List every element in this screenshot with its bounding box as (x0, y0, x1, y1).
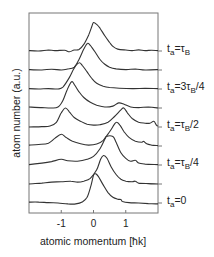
curve-label-curve-3: ta=3τB/4 (167, 80, 205, 95)
series-line-curve-4 (29, 82, 158, 108)
curves-group (29, 22, 158, 204)
series-line-curve-8 (29, 155, 158, 184)
curve-label-curve-5: ta=τB/2 (167, 118, 199, 133)
x-axis-title: atomic momentum [ħk] (40, 235, 146, 247)
curve-label-curve-1: ta=τB (167, 42, 190, 57)
series-line-curve-2 (29, 43, 158, 70)
curve-labels-group: ta=τBta=3τB/4ta=τB/2ta=τB/4ta=0 (167, 42, 205, 209)
x-tick-label-1: 0 (91, 218, 97, 229)
series-line-curve-9 (29, 174, 158, 205)
curve-label-curve-7: ta=τB/4 (167, 156, 199, 171)
x-tick-label-2: 1 (123, 218, 129, 229)
x-tick-label-0: -1 (57, 218, 66, 229)
y-axis-title: atom number (a.u.) (10, 68, 22, 157)
series-line-curve-7 (29, 136, 158, 165)
curve-label-curve-9: ta=0 (167, 194, 187, 209)
series-line-curve-1 (29, 22, 158, 51)
series-line-curve-6 (29, 122, 158, 145)
right-ticks-group (158, 51, 162, 203)
offset-line-chart: -101 ta=τBta=3τB/4ta=τB/2ta=τB/4ta=0 ato… (0, 0, 214, 257)
series-line-curve-3 (29, 63, 158, 89)
series-line-curve-5 (29, 108, 158, 127)
